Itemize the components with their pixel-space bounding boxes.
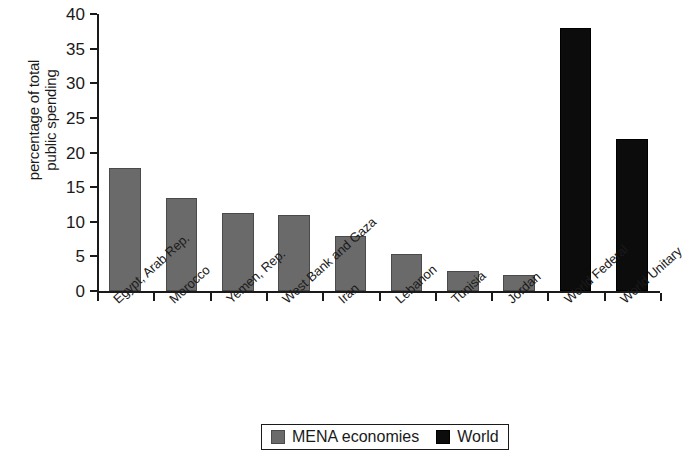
y-axis-tick: 20: [90, 152, 97, 154]
y-axis-tick: 10: [90, 221, 97, 223]
legend-item: MENA economies: [271, 429, 419, 445]
y-axis-tick: 40: [90, 13, 97, 15]
y-axis-tick: 15: [90, 186, 97, 188]
x-axis-tick: [210, 293, 212, 301]
x-axis-tick: [322, 293, 324, 301]
legend-item: World: [436, 429, 499, 445]
legend-swatch-mena: [271, 430, 285, 444]
x-axis-tick: [97, 293, 99, 301]
y-axis-tick-label: 10: [66, 213, 85, 230]
bar-world-unitary: [616, 139, 648, 291]
y-axis-tick-label: 15: [66, 179, 85, 196]
bar-world-federal: [560, 28, 592, 291]
legend-swatch-world: [436, 430, 450, 444]
y-axis-tick: 0: [90, 290, 97, 292]
legend-label: World: [457, 429, 499, 445]
x-axis-tick: [435, 293, 437, 301]
y-axis-tick: 5: [90, 255, 97, 257]
y-axis-tick-label: 20: [66, 144, 85, 161]
y-axis-line: [97, 14, 99, 291]
x-axis-tick: [604, 293, 606, 301]
x-axis-tick: [491, 293, 493, 301]
y-axis-tick-label: 5: [76, 248, 85, 265]
y-axis-tick-label: 30: [66, 75, 85, 92]
y-axis-title-line-1: percentage of total: [26, 60, 43, 180]
legend-label: MENA economies: [292, 429, 419, 445]
y-axis-tick-label: 40: [66, 6, 85, 23]
y-axis-tick-label: 35: [66, 40, 85, 57]
chart-legend: MENA economiesWorld: [261, 424, 509, 450]
y-axis-tick-label: 0: [76, 283, 85, 300]
y-axis-title-line-2: public spending: [43, 69, 60, 170]
y-axis-title: percentage of total public spending: [20, 25, 66, 215]
x-axis-tick: [379, 293, 381, 301]
y-axis-tick: 30: [90, 82, 97, 84]
x-axis-tick: [153, 293, 155, 301]
y-axis-tick: 25: [90, 117, 97, 119]
y-axis-tick-label: 25: [66, 109, 85, 126]
y-axis-tick: 35: [90, 48, 97, 50]
x-axis-tick: [547, 293, 549, 301]
x-axis-tick: [660, 293, 662, 301]
x-axis-tick: [266, 293, 268, 301]
